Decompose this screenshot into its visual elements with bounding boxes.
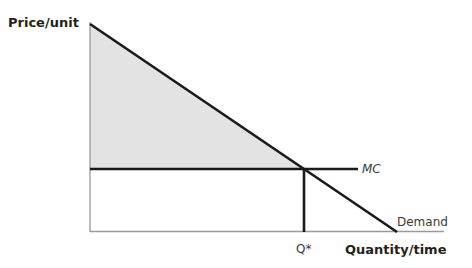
mc-label: MC	[362, 162, 381, 176]
demand-label: Demand	[397, 215, 448, 229]
y-axis-label: Price/unit	[8, 15, 79, 30]
q-star-label: Q*	[296, 242, 311, 256]
economics-diagram: Price/unit Quantity/time MC Demand Q*	[0, 0, 472, 268]
x-axis-label: Quantity/time	[345, 242, 447, 257]
